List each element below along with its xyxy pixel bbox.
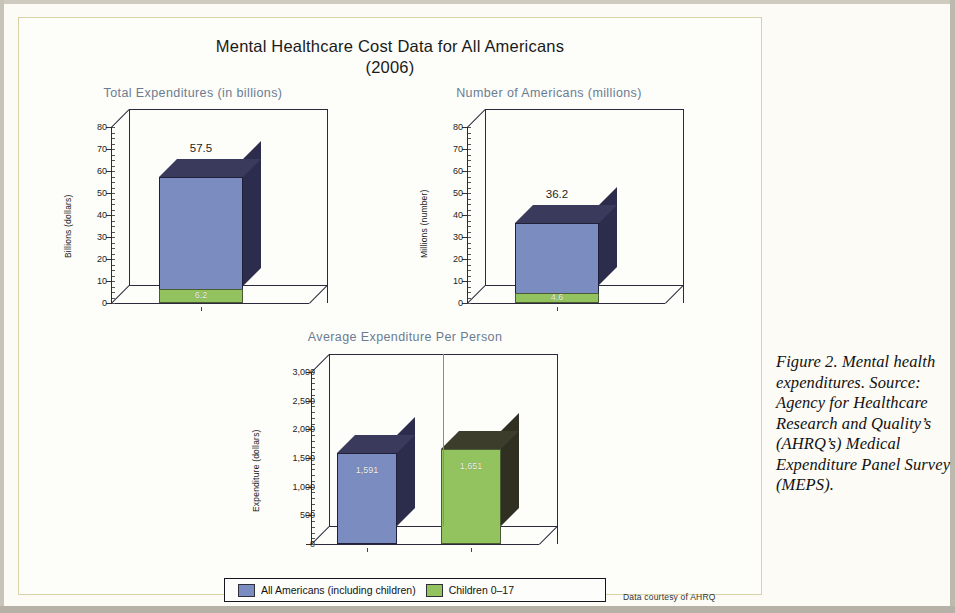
y-axis-minor-tick [112, 243, 115, 244]
source-note: Data courtesy of AHRQ [623, 592, 716, 602]
y-axis-tick-label: 10 [453, 276, 463, 286]
y-axis-minor-tick [312, 458, 315, 459]
y-axis-minor-tick [468, 215, 471, 216]
y-axis-minor-tick [468, 204, 471, 205]
y-axis-minor-tick [468, 188, 471, 189]
axis-frame-line [129, 109, 130, 285]
y-axis-tick-label: 60 [453, 166, 463, 176]
legend-label-children: Children 0–17 [449, 584, 514, 596]
y-axis-minor-tick [312, 435, 315, 436]
chart-2-title: Number of Americans (millions) [389, 86, 709, 100]
axis-frame-line [329, 354, 330, 526]
bar-value-label-children: 6.2 [159, 290, 243, 300]
y-axis-tick-label: 20 [97, 254, 107, 264]
y-axis-minor-tick [112, 265, 115, 266]
chart-1-title: Total Expenditures (in billions) [33, 86, 353, 100]
y-axis-minor-tick [468, 259, 471, 260]
y-axis-minor-tick [112, 155, 115, 156]
axis-frame-line [485, 109, 683, 110]
bar-side-face [599, 187, 617, 285]
x-axis-tick [367, 548, 368, 552]
y-axis-minor-tick [312, 395, 315, 396]
y-axis-minor-tick [468, 149, 471, 150]
y-axis-title: Millions (number) [419, 189, 429, 258]
axis-frame-line [129, 109, 327, 110]
y-axis-minor-tick [312, 510, 315, 511]
y-axis-minor-tick [312, 412, 315, 413]
bar-top-face [159, 159, 261, 177]
y-axis-minor-tick [112, 171, 115, 172]
y-axis-minor-tick [468, 254, 471, 255]
y-axis-minor-tick [312, 464, 315, 465]
bar-front-face [159, 177, 243, 304]
axis-frame-line [111, 285, 130, 304]
y-axis-minor-tick [112, 221, 115, 222]
y-axis-minor-tick [112, 193, 115, 194]
y-axis-minor-tick [112, 199, 115, 200]
y-axis-minor-tick [468, 226, 471, 227]
y-axis-minor-tick [312, 498, 315, 499]
y-axis-minor-tick [112, 270, 115, 271]
y-axis-minor-tick [112, 210, 115, 211]
y-axis-minor-tick [468, 160, 471, 161]
y-axis-minor-tick [112, 133, 115, 134]
y-axis-minor-tick [312, 527, 315, 528]
y-axis-minor-tick [312, 378, 315, 379]
y-axis-minor-tick [112, 292, 115, 293]
y-axis-minor-tick [112, 287, 115, 288]
y-axis-tick-label: 0 [458, 298, 463, 308]
y-axis-minor-tick [468, 265, 471, 266]
y-axis-minor-tick [312, 441, 315, 442]
axis-frame-line [665, 285, 684, 304]
y-axis-minor-tick [312, 469, 315, 470]
y-axis-title: Expenditure (dollars) [251, 429, 261, 512]
y-axis-minor-tick [312, 452, 315, 453]
scan-edge-bottom [0, 606, 955, 613]
axis-frame-line [467, 285, 486, 304]
y-axis-minor-tick [112, 226, 115, 227]
axis-frame-line [111, 303, 309, 304]
y-axis-minor-tick [468, 177, 471, 178]
y-axis-minor-tick [468, 232, 471, 233]
bar-value-label: 1,591 [337, 465, 397, 475]
y-axis-minor-tick [112, 298, 115, 299]
y-axis-minor-tick [312, 515, 315, 516]
y-axis-minor-tick [112, 303, 115, 304]
y-axis-tick-label: 30 [453, 232, 463, 242]
main-title-line-1: Mental Healthcare Cost Data for All Amer… [19, 36, 761, 57]
y-axis-minor-tick [112, 127, 115, 128]
y-axis-minor-tick [112, 237, 115, 238]
axis-frame-line [683, 109, 684, 303]
scan-edge-top [0, 0, 955, 4]
y-axis-tick-label: 70 [97, 144, 107, 154]
y-axis-minor-tick [468, 237, 471, 238]
y-axis-minor-tick [112, 248, 115, 249]
category-divider-line [443, 354, 444, 526]
y-axis-minor-tick [312, 447, 315, 448]
chart-number-of-americans: Number of Americans (millions) 010203040… [389, 86, 709, 326]
legend-swatch-blue [238, 584, 255, 597]
axis-frame-line [111, 109, 130, 128]
y-axis-minor-tick [468, 298, 471, 299]
y-axis-minor-tick [312, 475, 315, 476]
y-axis-minor-tick [468, 199, 471, 200]
y-axis-minor-tick [468, 292, 471, 293]
figure-border-box: Mental Healthcare Cost Data for All Amer… [18, 17, 762, 595]
y-axis-minor-tick [468, 144, 471, 145]
y-axis-minor-tick [312, 401, 315, 402]
y-axis-minor-tick [312, 492, 315, 493]
axis-frame-line [311, 544, 539, 545]
y-axis-minor-tick [468, 155, 471, 156]
y-axis-title: Billions (dollars) [63, 194, 73, 258]
y-axis-minor-tick [312, 481, 315, 482]
y-axis-minor-tick [312, 521, 315, 522]
y-axis-minor-tick [312, 533, 315, 534]
axis-frame-line [539, 526, 558, 545]
y-axis-minor-tick [468, 281, 471, 282]
y-axis-tick-label: 40 [453, 210, 463, 220]
y-axis-minor-tick [468, 171, 471, 172]
legend-swatch-green [426, 584, 443, 597]
y-axis-minor-tick [468, 138, 471, 139]
legend-item-all-americans: All Americans (including children) [238, 584, 416, 597]
figure-main-title: Mental Healthcare Cost Data for All Amer… [19, 36, 761, 78]
